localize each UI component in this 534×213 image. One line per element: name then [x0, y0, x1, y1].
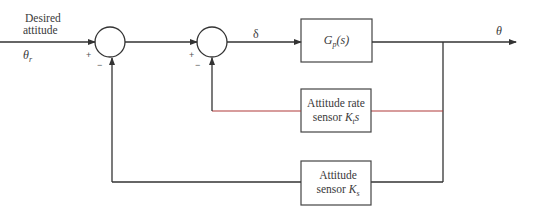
rate-sensor-gain: K [345, 111, 353, 123]
rate-sensor-s: s [355, 111, 359, 123]
sum2-minus-sign: − [195, 61, 200, 70]
input-symbol: θr [23, 49, 32, 64]
attitude-sensor-label: Attitude sensor Ks [305, 168, 371, 201]
plant-argument: (s) [337, 33, 350, 47]
input-label-line1: Desired [25, 13, 61, 25]
rate-sensor-text: sensor [313, 111, 345, 123]
input-label-line2: attitude [23, 25, 58, 37]
attitude-sensor-text: sensor [316, 183, 348, 195]
diagram-wires [0, 0, 534, 213]
plant-symbol: G [324, 33, 333, 47]
attitude-sensor-line1: Attitude [305, 168, 371, 182]
delta-label: δ [253, 28, 259, 40]
rate-sensor-line2: sensor Kts [301, 110, 371, 129]
attitude-sensor-gain-sub: s [356, 189, 359, 198]
rate-sensor-line1: Attitude rate [301, 96, 371, 110]
sum2-plus-sign: + [189, 51, 194, 60]
sum1-minus-sign: − [97, 61, 102, 70]
sum1-plus-sign: + [86, 51, 91, 60]
theta-subscript: r [29, 55, 32, 64]
summing-junction-2 [197, 27, 227, 57]
attitude-sensor-line2: sensor Ks [305, 182, 371, 201]
rate-sensor-label: Attitude rate sensor Kts [301, 96, 371, 129]
output-theta-label: θ [496, 25, 502, 37]
summing-junction-1 [95, 27, 125, 57]
plant-label: Gp(s) [301, 33, 372, 52]
block-diagram: Desired attitude θr + − + − δ Gp(s) Atti… [0, 0, 534, 213]
